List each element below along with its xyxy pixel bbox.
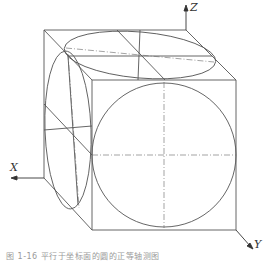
cube-diagram: [0, 0, 266, 262]
y-axis-label: Y: [254, 238, 261, 251]
z-axis-label: Z: [190, 1, 198, 14]
x-axis-label: X: [10, 161, 18, 174]
figure-caption: 图 1-16 平行于坐标面的圆的正等轴测图: [6, 250, 160, 261]
